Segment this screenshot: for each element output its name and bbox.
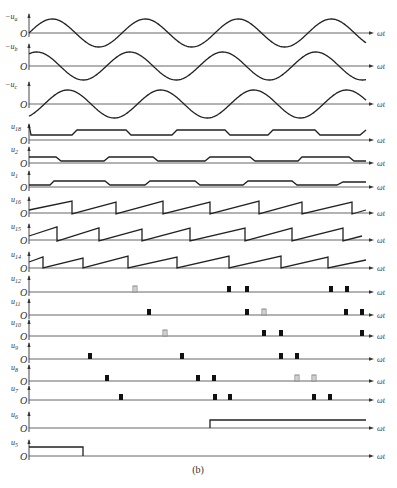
y-axis-arrow-icon [27,298,30,303]
pulse-solid [345,286,349,292]
row-u10: ωtOu10 [11,318,386,342]
y-axis-arrow-icon [27,13,30,18]
signal-label: −uc [5,80,17,90]
y-axis-arrow-icon [27,275,30,280]
x-axis-label: ωt [377,62,386,71]
pulse-solid [262,330,266,336]
x-axis-arrow-icon [369,238,374,242]
signal-label: −ub [5,42,17,52]
x-axis-label: ωt [377,396,386,405]
x-axis-label: ωt [377,355,386,364]
x-axis-arrow-icon [369,357,374,361]
y-axis-arrow-icon [27,342,30,347]
row-u1: ωtOu1 [11,169,386,193]
step-trace [210,420,366,428]
x-axis-label: ωt [377,377,386,386]
pulse-solid [312,394,316,400]
signal-label: u8 [11,363,18,373]
row-u8: ωtOu8 [11,363,386,387]
signal-label: u14 [11,250,21,260]
pulse-solid [212,375,216,381]
sawtooth-trace [29,227,362,241]
pulse-solid [147,309,151,315]
y-axis-arrow-icon [27,81,30,86]
x-axis-label: ωt [377,29,386,38]
x-axis-label: ωt [377,236,386,245]
sawtooth-trace [29,201,366,214]
row-u18: ωtOu18 [11,122,386,146]
origin-label: O [20,99,27,110]
trapezoid-trace [29,125,366,135]
x-axis-label: ωt [377,452,386,461]
figure-caption: (b) [192,464,204,476]
y-axis-arrow-icon [27,196,30,201]
x-axis-arrow-icon [369,185,374,189]
origin-label: O [20,135,27,146]
x-axis-label: ωt [377,424,386,433]
y-axis-arrow-icon [27,364,30,369]
pulse-solid [360,309,364,315]
y-axis-arrow-icon [27,223,30,228]
origin-label: O [20,208,27,219]
x-axis-label: ωt [377,159,386,168]
signal-label: u12 [11,274,21,284]
signal-label: u15 [11,222,21,232]
origin-label: O [20,263,27,274]
step-trace [29,447,83,456]
x-axis-arrow-icon [369,398,374,402]
pulse-solid [88,353,92,359]
x-axis-label: ωt [377,311,386,320]
origin-label: O [20,310,27,321]
x-axis-label: ωt [377,332,386,341]
signal-label: u5 [11,438,18,448]
pulse-solid [245,309,249,315]
pulse-solid [245,286,249,292]
x-axis-arrow-icon [369,161,374,165]
row-ua: ωtO−ua [5,12,386,47]
row-u15: ωtOu15 [11,222,386,246]
signal-label: u9 [11,341,18,351]
pulse-solid [295,353,299,359]
y-axis-arrow-icon [27,439,30,444]
signal-label: −ua [5,12,17,22]
signal-label: u11 [11,297,21,307]
row-u2: ωtOu2 [11,145,386,169]
row-u12: ωtOu12 [11,274,386,298]
y-axis-arrow-icon [27,411,30,416]
x-axis-arrow-icon [369,454,374,458]
x-axis-label: ωt [377,183,386,192]
pulse-solid [328,394,332,400]
signal-label: u6 [11,410,18,420]
y-axis-arrow-icon [27,385,30,390]
origin-label: O [20,28,27,39]
row-ub: ωtO−ub [5,42,386,80]
x-axis-arrow-icon [369,379,374,383]
row-u11: ωtOu11 [11,297,386,321]
x-axis-arrow-icon [369,211,374,215]
x-axis-arrow-icon [369,64,374,68]
pulse-solid [196,375,200,381]
origin-label: O [20,158,27,169]
waveform-rows: ωtO−uaωtO−ubωtO−ucωtOu18ωtOu2ωtOu1ωtOu16… [5,12,386,462]
origin-label: O [20,235,27,246]
origin-label: O [20,354,27,365]
x-axis-label: ωt [377,288,386,297]
row-u14: ωtOu14 [11,250,386,274]
row-u16: ωtOu16 [11,195,386,219]
origin-label: O [20,423,27,434]
pulse-solid [105,375,109,381]
trapezoid-trace [29,157,366,161]
x-axis-arrow-icon [369,266,374,270]
x-axis-arrow-icon [369,102,374,106]
x-axis-label: ωt [377,100,386,109]
pulse-solid [329,286,333,292]
x-axis-label: ωt [377,264,386,273]
pulse-solid [228,394,232,400]
y-axis-arrow-icon [27,319,30,324]
pulse-solid [279,353,283,359]
x-axis-arrow-icon [369,31,374,35]
row-u5: ωtOu5 [11,438,386,462]
signal-label: u2 [11,145,18,155]
pulse-solid [344,309,348,315]
x-axis-arrow-icon [369,334,374,338]
